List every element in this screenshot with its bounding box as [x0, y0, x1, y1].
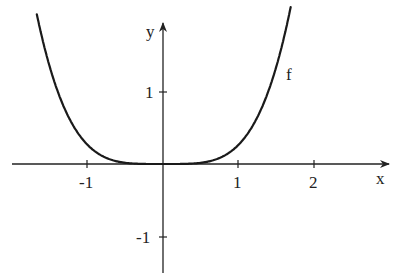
x-axis-label: x	[376, 169, 385, 188]
curve-label-f: f	[286, 65, 292, 84]
tick-label-y-neg1: -1	[136, 228, 150, 247]
tick-label-x-2: 2	[309, 173, 318, 192]
function-plot: -1 1 2 1 -1 x y f	[0, 0, 397, 273]
tick-label-y-1: 1	[145, 83, 154, 102]
y-axis-label: y	[146, 22, 155, 41]
curve-f	[37, 7, 291, 164]
tick-label-x-neg1: -1	[79, 173, 93, 192]
tick-label-x-1: 1	[233, 173, 242, 192]
